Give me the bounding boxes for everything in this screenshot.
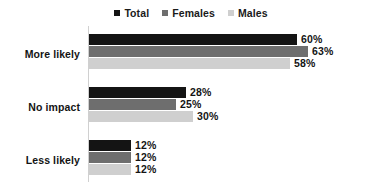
bar-value-less-likely-males: 12% <box>135 163 156 175</box>
category-label-more-likely: More likely <box>0 48 80 60</box>
bar-less-likely-females[interactable] <box>89 152 131 163</box>
bar-value-no-impact-males: 30% <box>197 110 218 122</box>
bar-more-likely-females[interactable] <box>89 46 308 57</box>
bar-less-likely-total[interactable] <box>89 140 131 151</box>
bar-less-likely-males[interactable] <box>89 164 131 175</box>
bar-value-less-likely-total: 12% <box>135 139 156 151</box>
bar-value-no-impact-females: 25% <box>180 98 201 110</box>
chart-screenshot: Total Females Males More likely 60% 63% <box>0 0 382 195</box>
bar-value-no-impact-total: 28% <box>190 86 211 98</box>
bar-more-likely-males[interactable] <box>89 58 290 69</box>
bar-value-less-likely-females: 12% <box>135 151 156 163</box>
bar-no-impact-total[interactable] <box>89 87 186 98</box>
bar-no-impact-males[interactable] <box>89 111 193 122</box>
plot-area: More likely 60% 63% 58% No impact 28% <box>0 0 382 195</box>
bar-more-likely-total[interactable] <box>89 34 297 45</box>
category-label-less-likely: Less likely <box>0 154 80 166</box>
bar-value-more-likely-females: 63% <box>312 45 333 57</box>
bar-no-impact-females[interactable] <box>89 99 176 110</box>
bar-value-more-likely-total: 60% <box>301 33 322 45</box>
category-label-no-impact: No impact <box>0 101 80 113</box>
bar-value-more-likely-males: 58% <box>294 57 315 69</box>
